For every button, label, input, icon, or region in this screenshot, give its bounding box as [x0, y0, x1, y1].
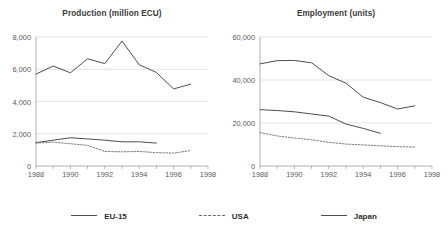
x-tick-label: 1994	[131, 170, 147, 179]
data-series-line	[260, 60, 415, 109]
x-tick-label: 1996	[389, 170, 405, 179]
data-series-line	[36, 41, 191, 89]
y-tick-label: 40,000	[232, 76, 255, 85]
y-tick-label: 8,000	[13, 33, 32, 42]
x-tick-label: 1994	[355, 170, 371, 179]
x-tick-label: 1998	[424, 170, 440, 179]
plot-area-production	[36, 37, 208, 166]
plot-area-employment	[260, 37, 432, 166]
y-tick-label: 6,000	[13, 65, 32, 74]
chart-panel-production: Production (million ECU) 02,0004,0006,00…	[0, 0, 224, 190]
plot-svg-employment	[260, 37, 432, 166]
legend-item[interactable]: EU-15	[71, 212, 127, 221]
y-tick-label: 20,000	[232, 119, 255, 128]
chart-panel-employment: Employment (units) 020,00040,00060,000 1…	[224, 0, 448, 190]
legend-item[interactable]: Japan	[321, 212, 377, 221]
x-axis-labels-production: 198819901992199419961998	[36, 170, 208, 182]
legend-label: EU-15	[104, 212, 127, 221]
data-series-line	[260, 133, 415, 147]
y-tick-label: 60,000	[232, 33, 255, 42]
legend-label: USA	[232, 212, 249, 221]
x-tick-label: 1988	[252, 170, 268, 179]
x-tick-label: 1988	[28, 170, 44, 179]
data-series-line	[36, 138, 156, 143]
x-tick-label: 1992	[321, 170, 337, 179]
chart-figure: Production (million ECU) 02,0004,0006,00…	[0, 0, 448, 235]
x-tick-label: 1990	[62, 170, 78, 179]
legend-label: Japan	[354, 212, 377, 221]
chart-title-employment: Employment (units)	[224, 9, 448, 18]
data-series-line	[36, 142, 191, 153]
chart-legend: EU-15USAJapan	[0, 205, 448, 227]
legend-swatch-solid-line-icon	[321, 215, 347, 218]
data-series-line	[260, 110, 380, 134]
legend-item[interactable]: USA	[199, 212, 249, 221]
y-axis-labels-production: 02,0004,0006,0008,000	[0, 37, 34, 166]
y-tick-label: 4,000	[13, 97, 32, 106]
legend-swatch-dashed-line-icon	[199, 215, 225, 218]
y-axis-labels-employment: 020,00040,00060,000	[224, 37, 258, 166]
x-tick-label: 1996	[165, 170, 181, 179]
legend-swatch-solid-line-icon	[71, 215, 97, 218]
x-tick-label: 1990	[286, 170, 302, 179]
chart-title-production: Production (million ECU)	[0, 9, 224, 18]
x-axis-labels-employment: 198819901992199419961998	[260, 170, 432, 182]
y-tick-label: 2,000	[13, 129, 32, 138]
plot-svg-production	[36, 37, 208, 166]
x-tick-label: 1992	[97, 170, 113, 179]
x-tick-label: 1998	[200, 170, 216, 179]
